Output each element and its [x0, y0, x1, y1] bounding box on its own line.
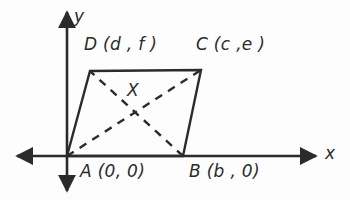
vertex-label-d: D (d , f )	[84, 36, 157, 53]
vertex-label-a: A (0, 0)	[80, 163, 145, 180]
y-axis-label: y	[74, 8, 84, 25]
vertex-label-b: B (b , 0)	[189, 163, 260, 180]
x-axis-label: x	[325, 145, 335, 162]
geometry-diagram: D (d , f ) C (c ,e ) A (0, 0) B (b , 0) …	[0, 0, 350, 200]
vertex-label-c: C (c ,e )	[196, 36, 265, 53]
intersection-label-x: X	[127, 82, 139, 99]
diagram-canvas	[0, 0, 350, 200]
